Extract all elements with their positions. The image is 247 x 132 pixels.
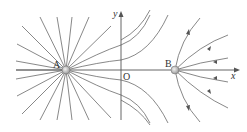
origin-label: O xyxy=(123,71,130,82)
charge-a-label: A xyxy=(53,59,61,70)
field-lines-diagram: A B O x y xyxy=(0,0,247,132)
y-axis-label: y xyxy=(112,8,118,19)
y-axis-arrow-icon xyxy=(119,11,124,17)
charge-a xyxy=(62,66,70,74)
charge-a-field-lines xyxy=(16,15,168,123)
x-axis-label: x xyxy=(230,70,236,81)
charge-b xyxy=(171,66,179,74)
charge-b-label: B xyxy=(165,58,172,69)
